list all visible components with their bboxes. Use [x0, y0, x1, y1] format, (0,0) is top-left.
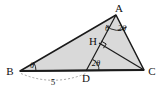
angle-label-at-a-left: θ — [105, 23, 109, 33]
geometry-canvas: A B C D H θ 2θ θ 2θ 5 — [0, 0, 167, 89]
vertex-label-d: D — [82, 72, 90, 84]
angle-label-at-b: θ — [30, 60, 34, 70]
vertex-label-a: A — [115, 2, 123, 14]
segment-bc — [20, 70, 144, 71]
angle-label-at-a-right: 2θ — [118, 23, 126, 33]
geometry-diagram: A B C D H θ 2θ θ 2θ 5 — [0, 0, 167, 89]
vertex-label-b: B — [6, 65, 13, 77]
vertex-label-h: H — [89, 35, 97, 47]
length-label-bd: 5 — [51, 77, 56, 87]
vertex-label-c: C — [148, 65, 155, 77]
angle-label-at-d: 2θ — [92, 58, 100, 68]
